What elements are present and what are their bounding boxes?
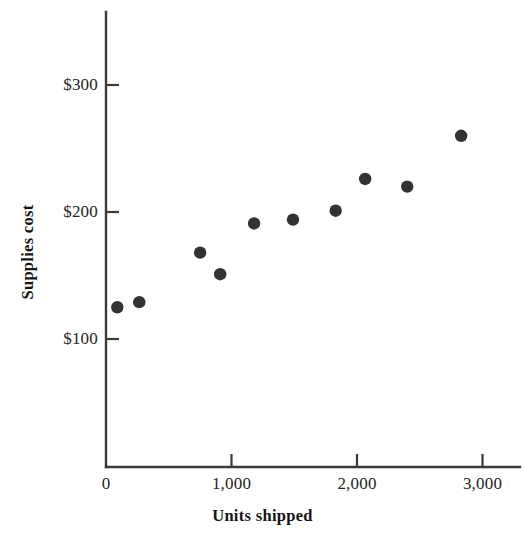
x-axis-title: Units shipped [0, 506, 525, 526]
data-points-layer [111, 130, 467, 314]
y-tick-label: $100 [34, 329, 98, 349]
data-point [455, 130, 467, 142]
y-tick-label: $200 [34, 202, 98, 222]
x-tick-label: 0 [102, 474, 111, 494]
x-tick-label: 3,000 [463, 474, 502, 494]
scatter-plot-figure: $100$200$300 01,0002,0003,000 Units ship… [0, 0, 525, 542]
data-point [287, 213, 299, 225]
data-point [329, 205, 341, 217]
axes-group [106, 12, 520, 467]
y-tick-marks [106, 85, 119, 339]
data-point [133, 296, 145, 308]
data-point [111, 301, 123, 313]
x-tick-label: 2,000 [337, 474, 376, 494]
y-axis-title-text: Supplies cost [18, 204, 38, 299]
x-tick-label: 1,000 [212, 474, 251, 494]
data-point [214, 268, 226, 280]
data-point [194, 246, 206, 258]
data-point [248, 217, 260, 229]
y-tick-label: $300 [34, 75, 98, 95]
data-point [359, 173, 371, 185]
data-point [401, 180, 413, 192]
x-tick-marks [232, 454, 483, 467]
